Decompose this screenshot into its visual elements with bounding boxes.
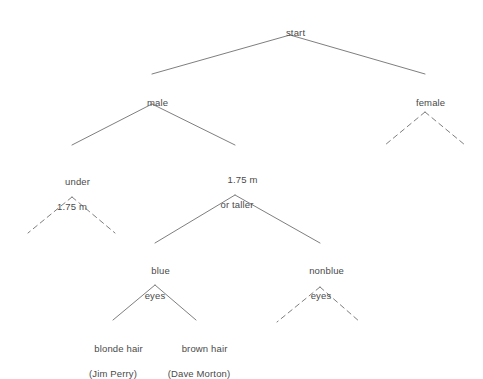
node-brown-hair-line2: (Dave Morton) <box>168 368 231 379</box>
node-blonde-hair-line2: (Jim Perry) <box>83 368 143 379</box>
node-under-1-75m: under 1.75 m <box>54 163 90 238</box>
node-male: male <box>136 84 168 122</box>
node-blonde-hair-jim-perry: blonde hair (Jim Perry) <box>83 330 143 379</box>
node-nonblue-eyes: nonblue eyes <box>298 252 344 327</box>
node-female: female <box>405 84 446 122</box>
node-1-75m-or-taller-line2: or taller <box>216 199 257 212</box>
node-brown-hair-line1: brown hair <box>182 343 228 354</box>
node-start: start <box>275 14 305 52</box>
node-nonblue-eyes-line1: nonblue <box>309 265 344 276</box>
node-blue-eyes: blue eyes <box>140 252 170 327</box>
node-nonblue-eyes-line2: eyes <box>298 290 344 303</box>
node-blue-eyes-line2: eyes <box>140 290 170 303</box>
node-female-line1: female <box>416 97 445 108</box>
node-blue-eyes-line1: blue <box>151 265 170 276</box>
node-start-line1: start <box>286 27 305 38</box>
decision-tree-diagram: start male female under 1.75 m 1.75 m or… <box>0 0 483 379</box>
node-1-75m-or-taller: 1.75 m or taller <box>216 161 257 236</box>
node-male-line1: male <box>147 97 168 108</box>
edge-start-female <box>290 35 425 74</box>
node-1-75m-or-taller-line1: 1.75 m <box>228 174 258 185</box>
edge-start-male <box>152 35 290 74</box>
node-under-1-75m-line1: under <box>65 176 90 187</box>
node-brown-hair-dave-morton: brown hair (Dave Morton) <box>168 330 231 379</box>
node-blonde-hair-line1: blonde hair <box>94 343 143 354</box>
node-under-1-75m-line2: 1.75 m <box>54 201 90 214</box>
